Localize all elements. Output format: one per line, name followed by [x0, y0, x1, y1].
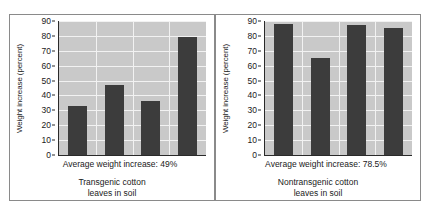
y-tick-label: 70	[248, 47, 257, 56]
bar	[311, 58, 330, 155]
y-tick-label: 60	[42, 61, 51, 70]
y-tick-mark	[258, 35, 261, 36]
panel-nontransgenic: Weight increase (percent) 01020304050607…	[215, 14, 421, 201]
y-tick-label: 80	[42, 32, 51, 41]
average-label-transgenic: Average weight increase: 49%	[30, 159, 210, 169]
y-tick-mark	[52, 125, 55, 126]
caption-line-1: Nontransgenic cotton	[220, 177, 416, 188]
y-tick-mark	[258, 155, 261, 156]
y-tick-mark	[52, 65, 55, 66]
y-axis-label: Weight increase (percent)	[11, 15, 27, 161]
figure: Weight increase (percent) 01020304050607…	[0, 0, 430, 218]
y-tick-label: 30	[248, 106, 257, 115]
caption-line-2: leaves in soil	[220, 188, 416, 199]
y-tick-mark	[52, 140, 55, 141]
gridline-vertical	[375, 21, 376, 155]
y-tick-mark	[258, 80, 261, 81]
y-tick-label: 20	[248, 121, 257, 130]
y-tick-mark	[52, 21, 55, 22]
y-tick-mark	[258, 110, 261, 111]
y-tick-label: 10	[248, 136, 257, 145]
bar	[141, 101, 160, 155]
y-tick-label: 0	[46, 151, 51, 160]
bar	[105, 85, 124, 155]
chart-transgenic: Weight increase (percent) 01020304050607…	[10, 15, 214, 161]
y-tick-mark	[52, 155, 55, 156]
plot-area-nontransgenic	[265, 21, 412, 155]
y-axis-ticks-left: 0102030405060708090	[27, 21, 55, 155]
y-tick-label: 30	[42, 106, 51, 115]
gridline-vertical	[96, 21, 97, 155]
y-axis-ticks-right: 0102030405060708090	[233, 21, 261, 155]
caption-line-1: Transgenic cotton	[14, 177, 210, 188]
x-axis-line	[58, 155, 206, 156]
panel-container: Weight increase (percent) 01020304050607…	[9, 14, 421, 201]
y-tick-label: 90	[248, 17, 257, 26]
y-tick-mark	[52, 110, 55, 111]
caption-transgenic: Transgenic cotton leaves in soil	[14, 177, 210, 199]
chart-nontransgenic: Weight increase (percent) 01020304050607…	[216, 15, 420, 161]
y-tick-mark	[258, 65, 261, 66]
y-tick-label: 50	[248, 76, 257, 85]
bar	[68, 106, 87, 155]
bar	[384, 28, 403, 155]
caption-nontransgenic: Nontransgenic cotton leaves in soil	[220, 177, 416, 199]
y-tick-mark	[258, 50, 261, 51]
y-tick-mark	[52, 50, 55, 51]
y-tick-label: 90	[42, 17, 51, 26]
gridline-vertical	[133, 21, 134, 155]
caption-line-2: leaves in soil	[14, 188, 210, 199]
gridline-vertical	[169, 21, 170, 155]
panel-transgenic: Weight increase (percent) 01020304050607…	[9, 14, 215, 201]
bar	[178, 37, 197, 155]
y-tick-mark	[258, 125, 261, 126]
bar	[347, 25, 366, 155]
y-tick-label: 20	[42, 121, 51, 130]
y-tick-mark	[52, 95, 55, 96]
y-axis-label-text: Weight increase (percent)	[221, 44, 230, 133]
y-tick-label: 70	[42, 47, 51, 56]
plot-area-transgenic	[59, 21, 206, 155]
y-tick-label: 40	[248, 91, 257, 100]
y-tick-label: 60	[248, 61, 257, 70]
y-tick-mark	[52, 80, 55, 81]
y-axis-label: Weight increase (percent)	[217, 15, 233, 161]
y-tick-label: 10	[42, 136, 51, 145]
y-axis-label-text: Weight increase (percent)	[15, 44, 24, 133]
y-tick-label: 80	[248, 32, 257, 41]
x-axis-line	[264, 155, 412, 156]
gridline-vertical	[302, 21, 303, 155]
y-tick-label: 40	[42, 91, 51, 100]
y-tick-label: 0	[252, 151, 257, 160]
y-tick-mark	[258, 21, 261, 22]
bar	[274, 24, 293, 155]
average-label-nontransgenic: Average weight increase: 78.5%	[236, 159, 416, 169]
y-tick-mark	[258, 95, 261, 96]
y-tick-label: 50	[42, 76, 51, 85]
y-tick-mark	[258, 140, 261, 141]
gridline-vertical	[339, 21, 340, 155]
y-tick-mark	[52, 35, 55, 36]
